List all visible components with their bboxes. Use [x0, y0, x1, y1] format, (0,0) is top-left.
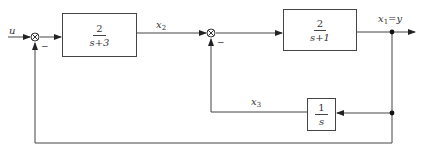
g2-numerator: 2 [314, 18, 326, 31]
h-numerator: 1 [315, 102, 327, 115]
g2-denominator: s+1 [310, 31, 330, 43]
fraction-g1: 2 s+3 [90, 23, 110, 48]
fraction-integrator: 1 s [315, 102, 327, 127]
output-pickoff-dot [390, 30, 395, 35]
x2-sub: 2 [162, 24, 166, 32]
outer-feedback-wire [35, 43, 392, 143]
g1-denominator: s+3 [90, 36, 110, 48]
x1-suffix: =y [388, 13, 402, 24]
fraction-g2: 2 s+1 [310, 18, 330, 43]
signal-label-x3: x3 [251, 97, 261, 109]
sum-junction-1 [31, 33, 39, 41]
signal-label-x1-y: x1=y [378, 14, 402, 26]
x3-sub: 3 [257, 101, 261, 109]
branch-pickoff-dot [390, 111, 395, 116]
block-g2: 2 s+1 [283, 9, 357, 51]
g1-numerator: 2 [93, 23, 105, 36]
sum2-minus-sign: − [217, 38, 225, 47]
block-g1: 2 s+3 [62, 13, 137, 57]
sum1-minus-sign: − [41, 42, 49, 51]
sum-junction-2 [207, 29, 215, 37]
signal-label-x2: x2 [156, 20, 166, 32]
input-label-u: u [9, 26, 15, 36]
h-denominator: s [319, 115, 324, 127]
block-integrator: 1 s [307, 98, 336, 131]
